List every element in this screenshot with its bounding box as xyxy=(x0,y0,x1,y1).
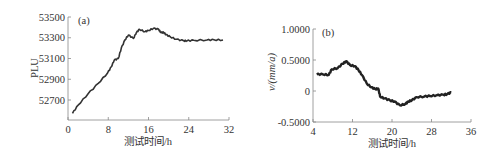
panel-b-y-axis-title: v/(mm/a) xyxy=(266,53,278,91)
panel-a-x-tick-label: 8 xyxy=(106,124,111,135)
panel-b-x-tick-label: 28 xyxy=(426,126,437,137)
panel-a-series-plu xyxy=(73,28,224,113)
panel-b-y-tick-label: 0 xyxy=(305,86,310,97)
panel-a: 08162432 5270052900531005330053500 (a) 测… xyxy=(29,12,234,148)
panel-a-x-tick-label: 32 xyxy=(224,124,235,135)
panel-a-y-tick-label: 53100 xyxy=(39,53,65,64)
panel-b-x-tick-label: 12 xyxy=(347,126,358,137)
panel-a-x-tick-label: 16 xyxy=(143,124,154,135)
panel-b-y-tick-label: -0.5000 xyxy=(278,117,310,128)
panel-a-x-tick-label: 0 xyxy=(65,124,70,135)
panel-b-series-velocity xyxy=(317,61,452,105)
panel-b-x-axis-title: 测试时间/h xyxy=(368,137,417,149)
panel-b-label: (b) xyxy=(322,27,335,39)
panel-b-x-tick-label: 4 xyxy=(310,126,316,137)
panel-a-y-axis-title: PLU xyxy=(29,58,40,78)
panel-b: 412202836 -0.500000.50001.0000 (b) 测试时间/… xyxy=(266,24,476,150)
chart-figure: 08162432 5270052900531005330053500 (a) 测… xyxy=(0,0,500,160)
panel-b-x-tick-label: 20 xyxy=(387,126,398,137)
panel-a-y-tick-label: 53300 xyxy=(39,32,65,43)
panel-b-y-tick-label: 1.0000 xyxy=(281,24,310,35)
panel-a-label: (a) xyxy=(78,15,90,27)
panel-a-x-axis-title: 测试时间/h xyxy=(124,135,173,147)
panel-a-y-tick-label: 52700 xyxy=(39,95,65,106)
panel-a-y-tick-label: 52900 xyxy=(39,74,65,85)
panel-b-y-tick-label: 0.5000 xyxy=(281,55,310,66)
panel-a-y-tick-label: 53500 xyxy=(39,12,65,23)
panel-a-x-tick-label: 24 xyxy=(184,124,195,135)
panel-b-x-tick-label: 36 xyxy=(466,126,477,137)
